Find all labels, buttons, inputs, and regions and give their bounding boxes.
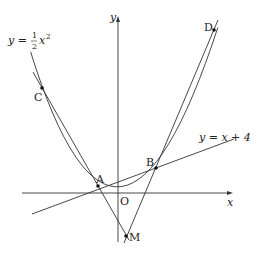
parabola-frac-den: 2 [32,42,37,51]
x-axis-label: x [227,196,234,209]
parabola-frac-num: 1 [32,31,37,40]
parabola-exp: 2 [46,33,50,41]
y-axis-arrow-icon [116,16,120,22]
line-y-eq-x-plus-4 [32,139,234,214]
point-C [40,86,44,90]
label-origin: O [120,195,129,208]
parabola-curve [31,28,218,187]
diagram-canvas: A B C D M O x y y = x + 4 y = 1 2 x 2 [0,0,257,259]
parabola-label-lhs: y = [7,34,27,47]
point-B [154,166,158,170]
line-CAM [33,72,129,240]
y-axis-label: y [109,11,117,24]
parabola-label-rhs: x [39,34,46,47]
point-M [124,234,128,238]
label-B: B [146,156,154,169]
label-M: M [129,231,140,244]
x-axis-arrow-icon [227,191,233,195]
y-axis [116,16,120,242]
label-C: C [34,91,42,104]
line-equation-label: y = x + 4 [198,131,251,144]
label-D: D [204,21,213,34]
parabola-equation-label: y = 1 2 x 2 [7,31,50,51]
label-A: A [95,173,105,186]
